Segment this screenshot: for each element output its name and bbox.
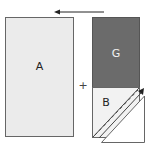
piece-b-label: B xyxy=(102,96,110,109)
piece-g-label: G xyxy=(112,47,121,60)
piece-a: A xyxy=(6,18,74,137)
plus-operator: + xyxy=(78,79,87,92)
piece-g: G xyxy=(93,18,140,88)
piece-a-label: A xyxy=(36,60,44,73)
quilt-assembly-diagram: A + G B xyxy=(0,0,151,153)
arrow-left-icon xyxy=(54,10,104,15)
